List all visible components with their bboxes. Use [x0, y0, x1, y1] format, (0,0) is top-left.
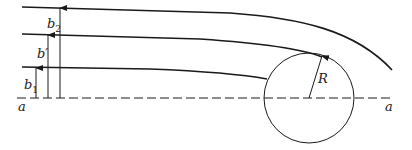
diagram-canvas: b2 b′ b1 a a R: [0, 0, 412, 150]
diagram-svg: [0, 0, 412, 150]
outer-streamline: [22, 7, 392, 70]
label-b2: b2: [47, 17, 61, 34]
label-b-prime: b′: [37, 47, 48, 60]
label-radius: R: [318, 72, 328, 85]
label-b1: b1: [24, 78, 38, 95]
middle-streamline: [22, 34, 322, 57]
lower-streamline: [22, 67, 267, 79]
label-axis-left: a: [18, 100, 26, 113]
label-axis-right: a: [385, 100, 393, 113]
